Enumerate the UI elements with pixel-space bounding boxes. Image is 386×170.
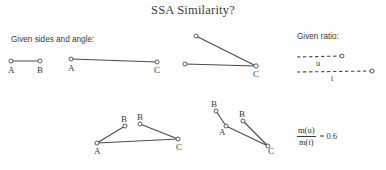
diagram-canvas: SSA Similarity? Given sides and angle: G… — [0, 0, 386, 170]
point-label-c: C — [253, 69, 259, 79]
vertex-c-node — [254, 64, 258, 68]
point-label-c: C — [268, 146, 274, 156]
ratio-numerator: m(u) — [297, 126, 316, 135]
figure-ratio-segment-t — [297, 69, 374, 73]
vertex-b2-node — [138, 122, 142, 126]
figure-given-angle-at-c — [183, 34, 258, 68]
point-label-b2: B — [137, 112, 143, 122]
vertex-b-node — [38, 59, 42, 63]
point-label-a: A — [68, 63, 75, 73]
vertex-b1-node — [123, 124, 127, 128]
ray-endpoint-node — [183, 62, 187, 66]
segment-t-label: t — [331, 73, 333, 83]
t-endpoint-node — [370, 69, 374, 73]
point-label-b1: B — [121, 114, 127, 124]
vertex-a-node — [9, 59, 13, 63]
ray-endpoint-node — [194, 34, 198, 38]
point-label-a: A — [219, 127, 226, 137]
vertex-b1-node — [214, 109, 218, 113]
ratio-equation: m(u) m(t) = 0.6 — [297, 126, 337, 147]
point-label-b2: B — [239, 109, 245, 119]
ratio-value: = 0.6 — [320, 131, 338, 141]
vertex-c-node — [176, 137, 180, 141]
segment-u-label: u — [316, 58, 320, 68]
vertex-a-node — [95, 141, 99, 145]
figure-given-side-ac — [69, 57, 159, 64]
vertex-c-node — [155, 60, 159, 64]
figure-solution-triangles-left — [95, 122, 180, 145]
point-label-b: B — [37, 65, 43, 75]
point-label-c: C — [176, 142, 182, 152]
ratio-denominator: m(t) — [298, 138, 315, 147]
vertex-b2-node — [241, 119, 245, 123]
point-label-b1: B — [211, 99, 217, 109]
figure-ratio-segment-u — [297, 54, 344, 58]
point-label-a: A — [8, 65, 15, 75]
point-label-c: C — [154, 65, 160, 75]
figure-given-side-ab — [9, 59, 42, 63]
point-label-a: A — [94, 146, 101, 156]
u-endpoint-node — [340, 54, 344, 58]
vertex-a-node — [69, 57, 73, 61]
